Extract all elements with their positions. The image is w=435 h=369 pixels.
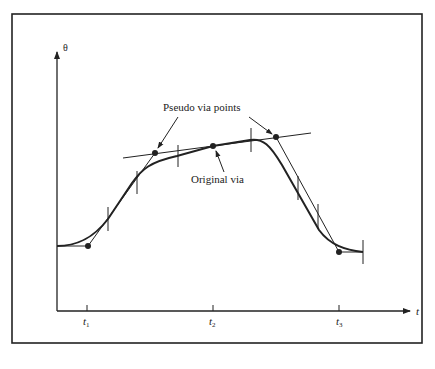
original-via-label: Original via [191, 173, 244, 185]
pseudo-via-arrow-left [158, 117, 178, 148]
blended-trajectory [57, 140, 363, 252]
start-point [85, 243, 91, 249]
x-ticks [87, 305, 339, 311]
tick-label-t2: t2 [209, 315, 216, 329]
original-via-point [210, 143, 216, 149]
original-via-arrow [216, 151, 224, 172]
tick-label-t3: t3 [336, 315, 343, 329]
x-axis-label: t [416, 305, 420, 317]
pseudo-via-point-left [152, 150, 158, 156]
pseudo-via-arrow-right [249, 117, 272, 134]
pseudo-via-point-right [273, 134, 279, 140]
pseudo-via-label: Pseudo via points [163, 101, 241, 113]
y-axis-label: θ [63, 42, 68, 53]
blend-ticks [108, 128, 363, 264]
trajectory-diagram: θ t t1 t2 t3 Pseudo via points Original [0, 0, 435, 369]
end-point [336, 249, 342, 255]
tick-label-t1: t1 [83, 315, 90, 329]
linear-segments [57, 133, 363, 252]
